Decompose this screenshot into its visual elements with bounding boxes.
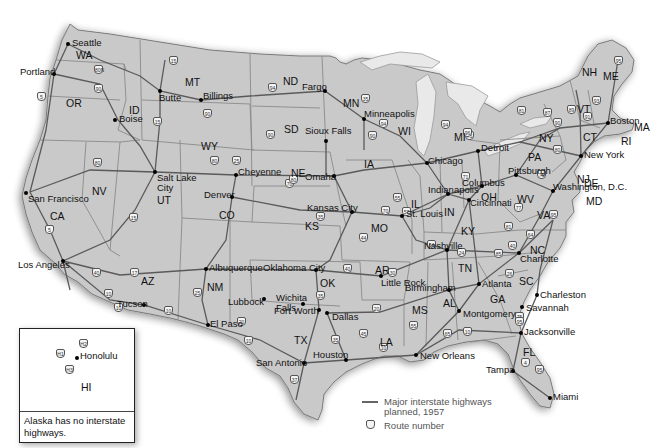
state-label-wa: WA — [76, 49, 93, 61]
route-shield-icon: H3 — [65, 365, 74, 374]
state-label-nm: NM — [207, 281, 223, 293]
route-shield-icon: 55 — [393, 193, 402, 202]
state-label-co: CO — [219, 209, 235, 221]
route-shield-icon: 80 — [553, 145, 562, 154]
city-label-fort-worth: Fort Worth — [274, 306, 319, 316]
route-shield-icon: H2 — [79, 339, 88, 348]
hawaii-inset: HI Honolulu H1 H2 H3 Alaska has no inter… — [19, 328, 135, 443]
city-dot-seattle — [66, 42, 70, 46]
route-shield-icon: 17 — [130, 268, 139, 277]
city-label-san-francisco: San Francisco — [28, 194, 89, 204]
city-dot-dallas — [325, 311, 329, 315]
city-dot-montgomery — [457, 309, 461, 313]
route-shield-icon: 25 — [232, 156, 241, 165]
city-label-omaha: Omaha — [305, 172, 336, 182]
state-label-mo: MO — [371, 222, 388, 234]
route-shield-icon: 94 — [379, 119, 388, 128]
city-label-new-orleans: New Orleans — [420, 351, 475, 361]
city-label-houston: Houston — [313, 350, 348, 360]
route-shield-icon: 5 — [37, 92, 46, 101]
city-label-tampa: Tampa — [486, 365, 515, 375]
city-label-savannah: Savannah — [526, 303, 569, 313]
city-label-los-angeles: Los Angeles — [18, 260, 70, 270]
alaska-note: Alaska has no interstate highways. — [20, 411, 134, 442]
route-shield-icon: 94 — [268, 83, 277, 92]
city-dot-savannah — [520, 305, 524, 309]
state-label-ga: GA — [490, 293, 505, 305]
state-label-al: AL — [443, 297, 456, 309]
city-label-seattle: Seattle — [72, 38, 102, 48]
city-label-albuquerque: Albuquerque — [209, 263, 263, 273]
route-shield-icon: 85 — [494, 249, 503, 258]
city-label-miami: Miami — [553, 392, 578, 402]
city-dot-jacksonville — [519, 331, 523, 335]
route-shield-icon: 90 — [94, 84, 103, 93]
state-label-tn: TN — [458, 262, 472, 274]
state-label-la: LA — [380, 336, 393, 348]
city-label-atlanta: Atlanta — [482, 279, 512, 289]
route-shield-icon: 93 — [592, 96, 601, 105]
route-shield-icon: 94 — [441, 120, 450, 129]
route-shield-icon: 15 — [169, 56, 178, 65]
city-dot-miami — [548, 396, 552, 400]
city-dot-albuquerque — [204, 267, 208, 271]
route-shield-icon: 90 — [553, 118, 562, 127]
city-label-portland: Portland — [20, 67, 55, 77]
city-label-boston: Boston — [610, 116, 640, 126]
state-label-va: VA — [537, 209, 550, 221]
city-dot-charleston — [535, 293, 539, 297]
state-label-nh: NH — [582, 66, 597, 78]
route-shield-icon: 20 — [372, 304, 381, 313]
route-shield-icon: 26 — [505, 269, 514, 278]
city-label-pittsburgh: Pittsburgh — [508, 166, 551, 176]
state-label-sd: SD — [284, 123, 299, 135]
state-label-fl: FL — [523, 346, 535, 358]
city-label-oklahoma-city: Oklahoma City — [263, 263, 325, 273]
legend-route-label: Route number — [384, 421, 444, 431]
city-label-denver: Denver — [204, 190, 235, 200]
route-shield-icon: 80 — [210, 156, 219, 165]
city-label-montgomery: Montgomery — [463, 309, 516, 319]
route-shield-icon: 90 — [368, 131, 377, 140]
route-shield-icon: 89 — [567, 105, 576, 114]
state-label-nv: NV — [92, 185, 107, 197]
route-shield-icon: 90 — [266, 130, 275, 139]
state-label-or: OR — [66, 97, 82, 109]
city-dot-honolulu — [75, 356, 79, 360]
route-shield-icon: 44 — [359, 233, 368, 242]
city-label-little-rock: Little Rock — [381, 278, 431, 288]
city-dot-detroit — [476, 149, 480, 153]
route-shield-icon: 4 — [521, 358, 530, 367]
city-label-sioux-falls: Sioux Falls — [305, 126, 355, 136]
state-label-ia: IA — [364, 158, 374, 170]
route-shield-icon: 81 — [504, 222, 513, 231]
route-shield-icon: 25 — [193, 288, 202, 297]
city-label-detroit: Detroit — [481, 143, 509, 153]
city-label-washington-d-c: Washington, D.C. — [553, 182, 627, 192]
city-label-san-antonio: San Antonio — [256, 358, 307, 368]
route-shield-icon: 95 — [549, 210, 558, 219]
state-label-vt: VT — [577, 103, 590, 115]
route-shield-icon: H1 — [56, 349, 65, 358]
city-dot-atlanta — [477, 282, 481, 286]
route-shield-icon: 10 — [104, 289, 113, 298]
city-label-kansas-city: Kansas City — [307, 203, 358, 213]
route-shield-icon: 70 — [381, 206, 390, 215]
state-label-wy: WY — [201, 140, 218, 152]
city-label-jacksonville: Jacksonville — [524, 327, 575, 337]
city-label-salt-lake-city: Salt Lake City — [157, 173, 207, 193]
route-shield-icon: 10 — [164, 306, 173, 315]
route-shield-icon: 55 — [409, 321, 418, 330]
legend-highways-label-2: planned, 1957 — [384, 407, 444, 417]
state-label-pa: PA — [528, 151, 541, 163]
city-label-dallas: Dallas — [332, 312, 358, 322]
city-label-nashville: Nashville — [424, 241, 463, 251]
state-label-ky: KY — [461, 225, 475, 237]
state-label-tx: TX — [294, 334, 307, 346]
route-shield-icon: 95 — [515, 317, 524, 326]
city-label-tucson: Tucson — [117, 299, 148, 309]
route-shield-icon: 81 — [517, 106, 526, 115]
state-label-ri: RI — [621, 135, 632, 147]
highway-line-swatch — [362, 401, 378, 403]
city-label-honolulu: Honolulu — [80, 351, 118, 361]
